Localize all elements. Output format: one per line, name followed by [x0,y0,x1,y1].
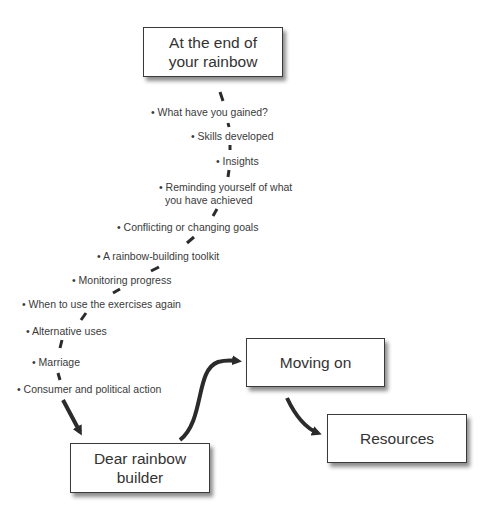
list-item: you have achieved [165,194,253,207]
list-item: • What have you gained? [151,106,268,119]
arrow-to-moving-on [180,360,238,440]
list-item: • Reminding yourself of what [159,181,292,194]
box-text: Moving on [280,353,352,372]
list-item: • A rainbow-building toolkit [97,250,219,263]
box-text: At the end of [169,33,258,52]
list-item: • Marriage [32,356,80,369]
box-text: builder [94,468,186,487]
list-item: • Alternative uses [26,325,107,338]
box-text: your rainbow [169,52,258,71]
list-item: • Consumer and political action [17,383,161,396]
arrow-to-resources [287,398,318,433]
list-item: • Monitoring progress [72,274,171,287]
list-item: • Conflicting or changing goals [117,221,258,234]
box-moving-on: Moving on [246,338,385,387]
box-text: Resources [360,429,434,448]
box-text: Dear rainbow [94,449,186,468]
list-item: • Insights [216,155,259,168]
list-item: • Skills developed [191,130,273,143]
arrow-to-dear-builder [63,400,80,432]
box-dear-rainbow-builder: Dear rainbowbuilder [70,443,210,493]
box-resources: Resources [327,414,467,463]
list-item: • When to use the exercises again [22,298,181,311]
box-end-of-rainbow: At the end ofyour rainbow [143,27,283,77]
